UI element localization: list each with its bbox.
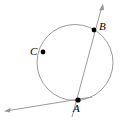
circle-outline xyxy=(37,25,113,101)
point-marker-b xyxy=(92,28,97,33)
secant-ray-arrowhead-icon xyxy=(99,4,104,11)
point-label-c: C xyxy=(30,46,37,57)
point-label-b: B xyxy=(99,21,106,32)
point-marker-c xyxy=(41,50,46,55)
geometry-canvas xyxy=(0,0,120,120)
tangent-ray-arrowhead-icon xyxy=(4,108,11,113)
geometry-figure: C B A xyxy=(0,0,120,120)
point-label-a: A xyxy=(73,103,80,114)
